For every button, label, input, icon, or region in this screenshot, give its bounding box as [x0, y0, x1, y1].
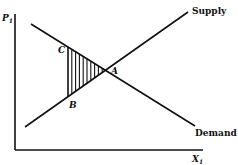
- supply-label: Supply: [192, 6, 227, 16]
- x-axis-label: X1: [191, 154, 203, 165]
- y-axis-label: P1: [1, 13, 13, 24]
- demand-label: Demand: [195, 128, 237, 138]
- supply-demand-diagram: P1 X1 Supply Demand C A B: [0, 0, 238, 165]
- shaded-triangle-abc: [68, 47, 102, 97]
- point-a-label: A: [110, 66, 118, 76]
- supply-curve: [25, 12, 188, 127]
- point-b-label: B: [68, 100, 77, 110]
- point-c-label: C: [58, 45, 66, 55]
